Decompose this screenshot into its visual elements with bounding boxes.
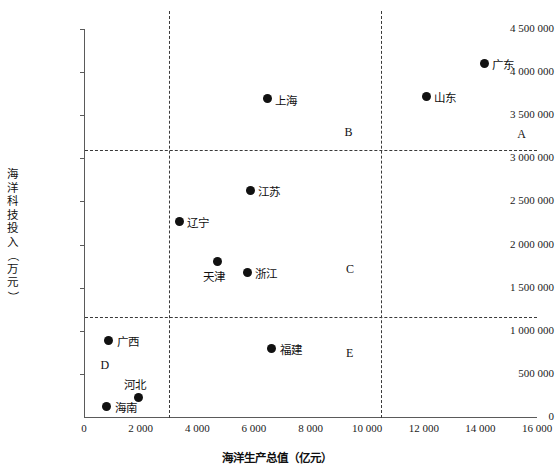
x-tick-label: 16 000 — [502, 422, 559, 434]
data-point — [246, 186, 255, 195]
data-point-label: 天津 — [203, 268, 225, 284]
horizontal-reference-line — [85, 150, 537, 151]
y-tick-label: 2 000 000 — [478, 238, 554, 250]
quadrant-label-b: B — [344, 125, 352, 140]
data-point — [263, 94, 272, 103]
data-point — [480, 59, 489, 68]
data-point-label: 广东 — [492, 56, 514, 72]
data-point — [175, 217, 184, 226]
y-tick-label: 1 000 000 — [478, 324, 554, 336]
y-tick-label: 0 — [478, 410, 554, 422]
y-axis-line — [84, 29, 85, 418]
data-point-label: 河北 — [124, 376, 146, 392]
horizontal-reference-line — [85, 317, 537, 318]
y-tick-mark — [80, 201, 84, 202]
data-point — [102, 402, 111, 411]
data-point-label: 辽宁 — [187, 214, 209, 230]
y-tick-label: 500 000 — [478, 367, 554, 379]
y-tick-label: 2 500 000 — [478, 194, 554, 206]
y-tick-label: 1 500 000 — [478, 281, 554, 293]
data-point-label: 江苏 — [258, 183, 280, 199]
data-point — [422, 92, 431, 101]
quadrant-label-d: D — [100, 358, 109, 373]
y-tick-mark — [80, 115, 84, 116]
vertical-reference-line — [381, 11, 382, 418]
data-point-label: 广西 — [117, 333, 139, 349]
y-tick-mark — [80, 29, 84, 30]
data-point-label: 上海 — [275, 92, 297, 108]
y-tick-label: 4 000 000 — [478, 65, 554, 77]
data-point — [243, 268, 252, 277]
y-tick-label: 3 500 000 — [478, 108, 554, 120]
y-tick-mark — [80, 245, 84, 246]
vertical-reference-line — [169, 11, 170, 418]
quadrant-label-a: A — [517, 127, 526, 142]
y-tick-mark — [80, 158, 84, 159]
data-point-label: 山东 — [434, 89, 456, 105]
data-point — [267, 344, 276, 353]
data-point — [213, 257, 222, 266]
y-tick-mark — [80, 288, 84, 289]
x-axis-title: 海洋生产总值（亿元） — [0, 449, 554, 465]
quadrant-label-e: E — [346, 346, 353, 361]
y-tick-label: 4 500 000 — [478, 22, 554, 34]
data-point-label: 浙江 — [255, 265, 277, 281]
y-tick-label: 3 000 000 — [478, 151, 554, 163]
quadrant-label-c: C — [346, 262, 354, 277]
y-tick-mark — [80, 331, 84, 332]
data-point-label: 海南 — [115, 399, 137, 415]
y-axis-title: 海洋科技投入（万元） — [4, 168, 20, 303]
x-axis-line — [84, 417, 537, 418]
data-point-label: 福建 — [280, 341, 302, 357]
y-tick-mark — [80, 72, 84, 73]
y-tick-mark — [80, 374, 84, 375]
data-point — [104, 336, 113, 345]
